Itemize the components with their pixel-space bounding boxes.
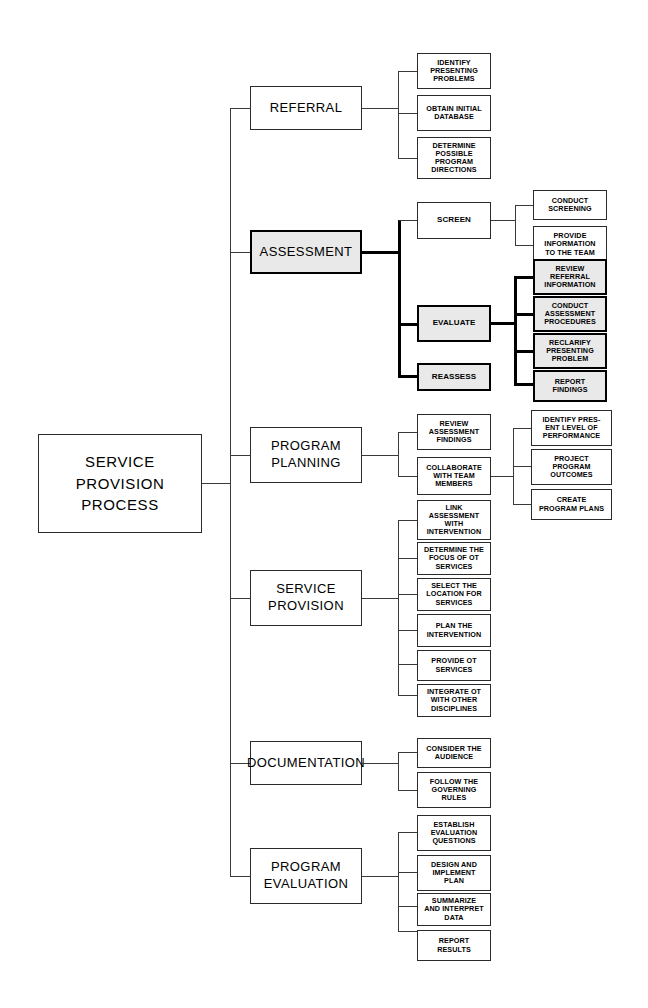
node-consider-the-audience[interactable]: CONSIDER THE AUDIENCE — [417, 738, 491, 768]
connector-trunk-to-program-planning — [230, 455, 250, 456]
connector-service-provision-child-4 — [398, 630, 417, 631]
connector-program-planning-spine — [398, 432, 399, 476]
node-determine-possible-program-directions[interactable]: DETERMINE POSSIBLE PROGRAM DIRECTIONS — [417, 137, 491, 179]
node-reassess[interactable]: REASSESS — [417, 363, 491, 391]
connector-trunk-to-referral — [230, 108, 250, 109]
connector-program-planning-child-2 — [398, 476, 417, 477]
connector-service-provision-child-5 — [398, 664, 417, 665]
connector-service-provision-child-2 — [398, 558, 417, 559]
node-determine-the-focus-of-ot-services[interactable]: DETERMINE THE FOCUS OF OT SERVICES — [417, 542, 491, 575]
connector-program-evaluation-spine — [398, 832, 399, 931]
connector-assessment-spine — [398, 220, 401, 375]
connector-trunk-to-assessment — [230, 252, 250, 253]
node-documentation[interactable]: DOCUMENTATION — [250, 741, 362, 785]
node-integrate-ot-with-other-disciplines[interactable]: INTEGRATE OT WITH OTHER DISCIPLINES — [417, 684, 491, 717]
connector-collaborate-child-2 — [513, 466, 531, 467]
connector-trunk-to-program-evaluation — [230, 876, 250, 877]
connector-evaluate-stub — [489, 322, 515, 325]
connector-collaborate-child-1 — [513, 428, 531, 429]
node-referral[interactable]: REFERRAL — [250, 86, 362, 130]
node-review-assessment-findings[interactable]: REVIEW ASSESSMENT FINDINGS — [417, 414, 491, 450]
node-service-provision[interactable]: SERVICE PROVISION — [250, 570, 362, 626]
connector-root-stub — [202, 483, 230, 484]
connector-assessment-stub — [360, 251, 400, 254]
connector-program-planning-stub — [362, 455, 398, 456]
connector-screen-child-2 — [515, 245, 533, 246]
node-obtain-initial-database[interactable]: OBTAIN INITIAL DATABASE — [417, 95, 491, 131]
node-report-findings[interactable]: REPORT FINDINGS — [533, 370, 607, 402]
connector-assessment-child-screen — [399, 220, 417, 221]
connector-collaborate-stub — [491, 476, 513, 477]
node-provide-information-to-the-team[interactable]: PROVIDE INFORMATION TO THE TEAM — [533, 226, 607, 263]
connector-trunk-to-service-provision — [230, 598, 250, 599]
connector-collaborate-child-3 — [513, 504, 531, 505]
connector-main-trunk — [230, 108, 231, 876]
node-conduct-assessment-procedures[interactable]: CONDUCT ASSESSMENT PROCEDURES — [533, 296, 607, 332]
connector-documentation-stub — [362, 763, 398, 764]
connector-program-planning-child-1 — [398, 432, 417, 433]
connector-program-evaluation-stub — [362, 876, 398, 877]
connector-screen-child-1 — [515, 205, 533, 206]
connector-referral-child-1 — [398, 71, 417, 72]
node-assessment[interactable]: ASSESSMENT — [250, 230, 362, 274]
connector-evaluate-spine — [514, 276, 517, 383]
node-identify-present-level-of-performance[interactable]: IDENTIFY PRES- ENT LEVEL OF PERFORMANCE — [531, 410, 612, 446]
node-provide-ot-services[interactable]: PROVIDE OT SERVICES — [417, 650, 491, 681]
node-program-planning[interactable]: PROGRAM PLANNING — [250, 427, 362, 483]
connector-program-evaluation-child-2 — [398, 872, 417, 873]
node-establish-evaluation-questions[interactable]: ESTABLISH EVALUATION QUESTIONS — [417, 815, 491, 851]
connector-evaluate-child-2 — [514, 313, 535, 316]
connector-documentation-spine — [398, 752, 399, 790]
connector-program-evaluation-child-4 — [398, 931, 417, 932]
node-report-results[interactable]: REPORT RESULTS — [417, 930, 491, 961]
node-collaborate-with-team-members[interactable]: COLLABORATE WITH TEAM MEMBERS — [417, 457, 491, 495]
node-plan-the-intervention[interactable]: PLAN THE INTERVENTION — [417, 614, 491, 647]
connector-service-provision-spine — [398, 520, 399, 695]
node-summarize-and-interpret-data[interactable]: SUMMARIZE AND INTERPRET DATA — [417, 893, 491, 926]
connector-screen-spine — [515, 205, 516, 245]
connector-evaluate-child-4 — [514, 383, 535, 386]
connector-referral-child-2 — [398, 113, 417, 114]
connector-evaluate-child-1 — [514, 276, 535, 279]
connector-assessment-child-evaluate — [398, 323, 419, 326]
connector-service-provision-child-1 — [398, 520, 417, 521]
node-reclarify-presenting-problem[interactable]: RECLARIFY PRESENTING PROBLEM — [533, 333, 607, 369]
connector-screen-stub — [491, 220, 515, 221]
connector-program-evaluation-child-3 — [398, 906, 417, 907]
connector-assessment-child-reassess — [398, 375, 419, 378]
node-select-the-location-for-services[interactable]: SELECT THE LOCATION FOR SERVICES — [417, 578, 491, 611]
node-evaluate[interactable]: EVALUATE — [417, 305, 491, 342]
node-review-referral-information[interactable]: REVIEW REFERRAL INFORMATION — [533, 259, 607, 295]
connector-service-provision-child-6 — [398, 695, 417, 696]
connector-service-provision-stub — [362, 598, 398, 599]
node-create-program-plans[interactable]: CREATE PROGRAM PLANS — [531, 489, 612, 520]
connector-evaluate-child-3 — [514, 350, 535, 353]
node-root-service-provision-process[interactable]: SERVICE PROVISION PROCESS — [38, 434, 202, 533]
connector-documentation-child-1 — [398, 752, 417, 753]
connector-referral-spine — [398, 71, 399, 158]
connector-documentation-child-2 — [398, 790, 417, 791]
node-program-evaluation[interactable]: PROGRAM EVALUATION — [250, 848, 362, 904]
node-link-assessment-with-intervention[interactable]: LINK ASSESSMENT WITH INTERVENTION — [417, 500, 491, 540]
connector-referral-child-3 — [398, 158, 417, 159]
node-follow-the-governing-rules[interactable]: FOLLOW THE GOVERNING RULES — [417, 772, 491, 808]
flowchart-canvas: SERVICE PROVISION PROCESS REFERRAL IDENT… — [0, 0, 648, 1008]
node-conduct-screening[interactable]: CONDUCT SCREENING — [533, 190, 607, 220]
node-project-program-outcomes[interactable]: PROJECT PROGRAM OUTCOMES — [531, 449, 612, 485]
node-design-and-implement-plan[interactable]: DESIGN AND IMPLEMENT PLAN — [417, 855, 491, 891]
connector-service-provision-child-3 — [398, 594, 417, 595]
connector-program-evaluation-child-1 — [398, 832, 417, 833]
node-identify-presenting-problems[interactable]: IDENTIFY PRESENTING PROBLEMS — [417, 53, 491, 89]
node-screen[interactable]: SCREEN — [417, 202, 491, 239]
connector-referral-stub — [362, 108, 398, 109]
